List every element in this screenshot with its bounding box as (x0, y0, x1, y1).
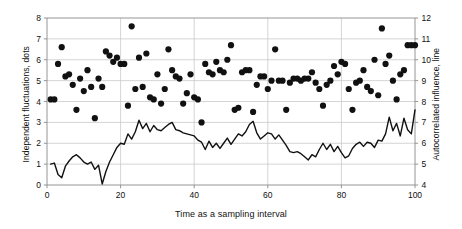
scatter-point (349, 107, 355, 113)
tick-labels: 012345678456789101112020406080100 (36, 13, 431, 200)
scatter-point (121, 61, 127, 67)
chart-figure: 012345678456789101112020406080100 Indepe… (0, 0, 462, 229)
scatter-point (162, 86, 168, 92)
scatter-point (125, 103, 131, 109)
scatter-point (305, 75, 311, 81)
y-tick-label-left: 3 (36, 117, 41, 127)
scatter-point (228, 42, 234, 48)
scatter-point (224, 57, 230, 63)
scatter-point (320, 103, 326, 109)
scatter-point (265, 86, 271, 92)
y-tick-label-right: 5 (422, 159, 427, 169)
scatter-point (198, 119, 204, 125)
y-axis-right-title: Autocorrelated influence, line (432, 24, 441, 184)
scatter-point (261, 73, 267, 79)
y-tick-label-left: 1 (36, 159, 41, 169)
scatter-point (368, 88, 374, 94)
scatter-point (73, 107, 79, 113)
scatter-point (371, 57, 377, 63)
y-tick-label-left: 6 (36, 55, 41, 65)
scatter-point (342, 61, 348, 67)
scatter-point (394, 96, 400, 102)
scatter-point (77, 75, 83, 81)
scatter-point (357, 78, 363, 84)
scatter-point (88, 84, 94, 90)
x-tick-label: 80 (337, 190, 347, 200)
scatter-point (184, 90, 190, 96)
scatter-point (154, 71, 160, 77)
scatter-point (254, 82, 260, 88)
scatter-point (210, 71, 216, 77)
scatter-point (129, 23, 135, 29)
scatter-point (309, 69, 315, 75)
scatter-point (132, 86, 138, 92)
scatter-point (379, 25, 385, 31)
scatter-point (316, 86, 322, 92)
scatter-point (268, 78, 274, 84)
scatter-point (70, 82, 76, 88)
scatter-point (246, 67, 252, 73)
y-tick-label-right: 11 (422, 34, 431, 44)
y-axis-left-title: Independent fluctuations, dots (22, 24, 31, 184)
scatter-point (195, 96, 201, 102)
scatter-point (180, 100, 186, 106)
scatter-point (140, 84, 146, 90)
x-tick-label: 20 (116, 190, 126, 200)
scatter-point (401, 67, 407, 73)
x-tick-label: 100 (408, 190, 422, 200)
scatter-point (313, 80, 319, 86)
scatter-point (375, 92, 381, 98)
scatter-point (412, 42, 418, 48)
scatter-point (390, 78, 396, 84)
scatter-point (51, 96, 57, 102)
scatter-point (158, 100, 164, 106)
x-tick-label: 60 (263, 190, 273, 200)
plot-canvas: 012345678456789101112020406080100 (0, 0, 462, 229)
scatter-point (169, 67, 175, 73)
scatter-point (213, 59, 219, 65)
scatter-point (151, 96, 157, 102)
line-series (51, 110, 415, 184)
scatter-point (143, 50, 149, 56)
scatter-point (55, 61, 61, 67)
y-tick-label-left: 7 (36, 34, 41, 44)
scatter-point (95, 75, 101, 81)
scatter-point (382, 61, 388, 67)
scatter-point (81, 88, 87, 94)
scatter-point (114, 55, 120, 61)
x-axis-title: Time as a sampling interval (131, 210, 331, 219)
y-tick-label-left: 8 (36, 13, 41, 23)
scatter-point (66, 71, 72, 77)
scatter-point (202, 61, 208, 67)
y-tick-label-left: 4 (36, 97, 41, 107)
scatter-point (59, 44, 65, 50)
scatter-point (386, 52, 392, 58)
scatter-point (92, 115, 98, 121)
scatter-point (279, 78, 285, 84)
scatter-point (346, 86, 352, 92)
y-tick-label-right: 9 (422, 76, 427, 86)
scatter-point (176, 75, 182, 81)
x-tick-label: 0 (45, 190, 50, 200)
scatter-point (99, 84, 105, 90)
y-tick-label-right: 12 (422, 13, 432, 23)
y-tick-label-left: 5 (36, 76, 41, 86)
y-tick-label-left: 2 (36, 138, 41, 148)
y-tick-label-right: 8 (422, 97, 427, 107)
scatter-point (283, 107, 289, 113)
scatter-point (187, 71, 193, 77)
scatter-point (250, 109, 256, 115)
y-tick-label-right: 6 (422, 138, 427, 148)
scatter-point (136, 55, 142, 61)
scatter-point (235, 105, 241, 111)
y-tick-label-left: 0 (36, 180, 41, 190)
scatter-point (272, 46, 278, 52)
scatter-point (331, 63, 337, 69)
scatter-point (221, 69, 227, 75)
y-tick-label-right: 7 (422, 117, 427, 127)
y-tick-label-right: 4 (422, 180, 427, 190)
line-series-autocorrelated-influence (51, 110, 415, 184)
scatter-point (327, 78, 333, 84)
scatter-point (335, 71, 341, 77)
scatter-point (165, 46, 171, 52)
